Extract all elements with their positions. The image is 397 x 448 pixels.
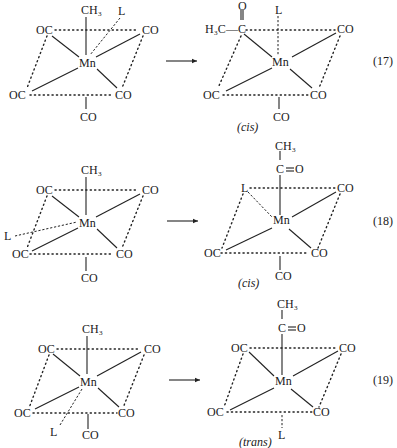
acyl-carbon-label: C: [238, 22, 246, 36]
carbonyl-label: CO: [116, 247, 133, 261]
carbonyl-label: OC: [203, 88, 220, 102]
isomer-label: (cis): [237, 120, 258, 134]
manganese-label: Mn: [273, 213, 290, 227]
isomer-label: (cis): [238, 276, 259, 290]
product-19: CH₃ C O OC CO Mn OC CO L (trans): [207, 297, 356, 448]
carbonyl-label: CO: [337, 22, 354, 36]
reaction-scheme: CH₃ L OC CO Mn OC CO CO O H₃C —: [0, 0, 397, 448]
ligand-l-label: L: [118, 4, 125, 18]
carbonyl-label: OC: [204, 246, 221, 260]
acyl-carbon-label: C: [278, 321, 286, 335]
acyl-oxygen-label: O: [238, 0, 247, 13]
manganese-label: Mn: [272, 55, 289, 69]
manganese-label: Mn: [79, 216, 96, 230]
product-18: CH₃ C O L CO Mn OC CO CO (cis): [204, 139, 354, 290]
ligand-l-label: L: [241, 181, 248, 195]
carbonyl-label: OC: [38, 342, 55, 356]
carbonyl-label: CO: [142, 183, 159, 197]
carbonyl-label: CO: [310, 88, 327, 102]
acyl-methyl-label: CH₃: [275, 139, 296, 153]
acyl-oxygen-label: O: [297, 321, 306, 335]
carbonyl-label: CO: [81, 271, 98, 285]
carbonyl-label: OC: [12, 247, 29, 261]
acyl-oxygen-label: O: [295, 162, 304, 176]
carbonyl-label: OC: [36, 183, 53, 197]
carbonyl-label: CO: [80, 110, 97, 124]
reactant-18: CH₃ OC CO L Mn OC CO CO: [4, 163, 159, 285]
ligand-l-label: L: [278, 428, 285, 442]
carbonyl-label: CO: [82, 428, 99, 442]
acyl-bond: —: [225, 22, 239, 36]
carbonyl-label: CO: [273, 110, 290, 124]
carbonyl-label: OC: [36, 23, 53, 37]
manganese-label: Mn: [275, 374, 292, 388]
carbonyl-label: OC: [9, 88, 26, 102]
reactant-19: CH₃ OC CO Mn OC CO L CO: [14, 322, 161, 442]
methyl-label: CH₃: [81, 3, 102, 17]
reactant-17: CH₃ L OC CO Mn OC CO CO: [9, 3, 159, 124]
product-17: O H₃C — C L CO Mn OC CO CO (cis): [203, 0, 354, 134]
isomer-label: (trans): [239, 435, 272, 448]
acyl-methyl-label: H₃C: [205, 22, 226, 36]
methyl-label: CH₃: [82, 322, 103, 336]
carbonyl-label: CO: [339, 341, 356, 355]
methyl-label: CH₃: [81, 163, 102, 177]
reaction-17: CH₃ L OC CO Mn OC CO CO O H₃C —: [9, 0, 393, 134]
ligand-l-label: L: [50, 425, 57, 439]
carbonyl-label: CO: [115, 88, 132, 102]
equation-number: (17): [373, 54, 393, 68]
equation-number: (19): [373, 373, 393, 387]
carbonyl-label: CO: [337, 181, 354, 195]
ligand-l-label: L: [275, 3, 282, 17]
manganese-label: Mn: [80, 375, 97, 389]
acyl-methyl-label: CH₃: [277, 297, 298, 311]
carbonyl-label: OC: [231, 341, 248, 355]
reaction-19: CH₃ OC CO Mn OC CO L CO CH₃ C O: [14, 297, 393, 448]
carbonyl-label: CO: [311, 246, 328, 260]
carbonyl-label: CO: [275, 269, 292, 283]
carbonyl-label: CO: [142, 23, 159, 37]
reaction-18: CH₃ OC CO L Mn OC CO CO CH₃ C O: [4, 139, 393, 290]
carbonyl-label: CO: [144, 342, 161, 356]
carbonyl-label: OC: [14, 406, 31, 420]
manganese-label: Mn: [79, 56, 96, 70]
equation-number: (18): [373, 214, 393, 228]
ligand-l-label: L: [4, 229, 11, 243]
carbonyl-label: CO: [118, 406, 135, 420]
acyl-carbon-label: C: [276, 162, 284, 176]
carbonyl-label: OC: [207, 405, 224, 419]
carbonyl-label: CO: [313, 405, 330, 419]
